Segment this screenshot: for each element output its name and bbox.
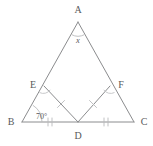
tick-fd-1 <box>90 101 97 108</box>
angle-label-x: x <box>75 35 80 45</box>
vertex-label-c: C <box>141 116 148 127</box>
vertex-label-b: B <box>8 116 15 127</box>
angle-label-b-70: 70° <box>36 112 47 121</box>
segment-ac <box>78 22 134 122</box>
vertex-label-d: D <box>74 130 81 141</box>
geometry-diagram-canvas: A B C D E F x 70° <box>0 0 153 146</box>
segment-ab <box>22 22 78 122</box>
vertex-label-e: E <box>30 79 36 90</box>
vertex-label-f: F <box>118 79 124 90</box>
geometry-figure: A B C D E F x 70° <box>0 0 153 146</box>
vertex-label-a: A <box>74 4 82 15</box>
angle-mark-f <box>104 90 115 94</box>
